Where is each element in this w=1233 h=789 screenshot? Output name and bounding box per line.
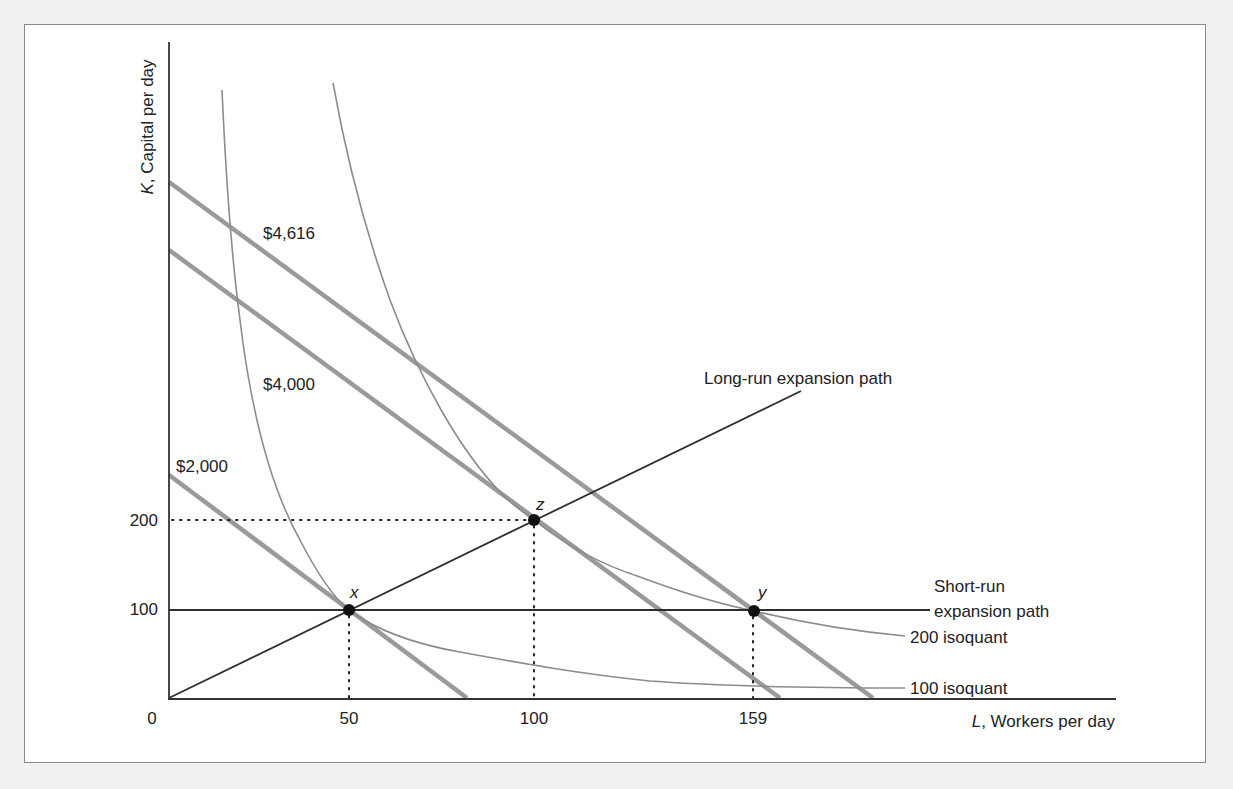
axes (168, 42, 1116, 699)
short-run-expansion-label-line1: Short-run (934, 577, 1005, 596)
isocost-line-4616 (169, 182, 873, 698)
x-tick-100: 100 (520, 709, 548, 728)
isocost-label-2000: $2,000 (176, 457, 228, 476)
x-axis-var: L (972, 712, 981, 731)
isoquant-100-label: 100 isoquant (910, 679, 1008, 698)
point-y-label: y (757, 583, 768, 602)
point-z (528, 514, 540, 526)
point-x (343, 604, 355, 616)
y-tick-200: 200 (130, 511, 158, 530)
isocost-line-2000 (169, 475, 467, 698)
short-run-expansion-label-line2: expansion path (934, 602, 1049, 621)
isocost-label-4616: $4,616 (263, 224, 315, 243)
isocost-lines (169, 182, 873, 698)
isoquant-100 (222, 90, 905, 688)
x-tick-50: 50 (340, 709, 359, 728)
isocost-label-4000: $4,000 (263, 375, 315, 394)
x-tick-159: 159 (739, 709, 767, 728)
x-axis-title: L, Workers per day (972, 712, 1116, 731)
isoquant-200-label: 200 isoquant (910, 628, 1008, 647)
x-axis-title-text: , Workers per day (981, 712, 1115, 731)
y-tick-100: 100 (130, 600, 158, 619)
point-y (748, 605, 760, 617)
long-run-expansion-label: Long-run expansion path (704, 369, 892, 388)
isocost-line-4000 (169, 250, 780, 698)
y-axis-title: K, Capital per day (138, 59, 157, 195)
point-z-label: z (535, 495, 545, 514)
expansion-paths (169, 391, 930, 698)
isoquant-isocost-chart: x z y $4,616 $4,000 $2,000 Long-run expa… (0, 0, 1233, 789)
origin-label: 0 (147, 709, 156, 728)
y-axis-var: K (138, 183, 157, 195)
y-axis-title-text: , Capital per day (138, 59, 157, 183)
point-x-label: x (349, 583, 359, 602)
isoquant-200 (333, 83, 905, 636)
